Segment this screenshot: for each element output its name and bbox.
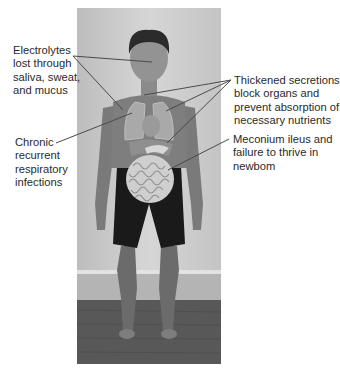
wood-floor [77,300,221,364]
label-line: saliva, sweat, [13,71,80,84]
label-meconium: Meconium ileus and failure to thrive in … [233,133,333,173]
left-foot [119,329,135,339]
label-line: respiratory [15,163,68,176]
label-line: Electrolytes [13,44,80,57]
baseboard [77,274,221,300]
label-thickened-secretions: Thickened secretions block organs and pr… [234,74,340,128]
label-line: necessary nutrients [234,114,340,127]
label-line: Meconium ileus and [233,133,333,146]
label-line: failure to thrive in [233,146,333,159]
label-line: Chronic [15,136,68,149]
right-foot [161,329,177,339]
label-line: and mucus [13,84,80,97]
patient-illustration [77,8,221,364]
label-line: recurrent [15,149,68,162]
label-line: Thickened secretions [234,74,340,87]
label-line: block organs and [234,87,340,100]
label-line: infections [15,176,68,189]
baseboard-trim [77,270,221,274]
heart [142,115,160,137]
label-line: lost through [13,57,80,70]
label-chronic: Chronic recurrent respiratory infections [15,136,68,190]
label-line: prevent absorption of [234,101,340,114]
label-electrolytes: Electrolytes lost through saliva, sweat,… [13,44,80,98]
label-line: newbom [233,160,333,173]
patient-photo [77,8,221,364]
